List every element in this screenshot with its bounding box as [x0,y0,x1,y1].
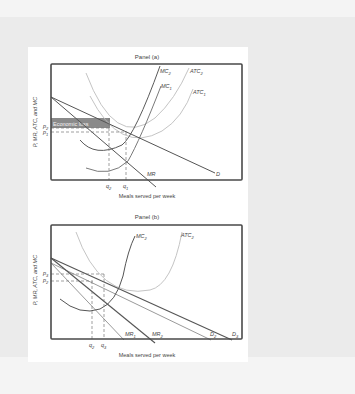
atc1-label-a: ATC1 [192,89,206,97]
q1-tick-a: q1 [123,183,128,191]
q2-tick-b: q2 [89,342,95,350]
panel-a: Panel (a) Economic loss MC2 MC1 ATC2 ATC… [32,54,242,199]
y-axis-label-a: P, MR, ATC, and MC [32,97,38,147]
mc1-label-a: MC1 [161,83,172,91]
y-axis-label-b: P, MR, ATC, and MC [32,255,38,305]
mr-curve [51,97,156,187]
demand-curve-d3 [51,258,232,340]
p2-tick-b: p2 [42,277,49,285]
mr1-label: MR1 [125,331,136,339]
mc2-label-a: MC2 [160,68,172,76]
economic-loss-label: Economic loss [53,121,89,127]
mr-label-a: MR [147,171,156,177]
d-label-a: D [216,171,220,177]
d3-label: D3 [232,331,239,339]
atc2-label-b: ATC2 [180,232,195,240]
atc2-label-a: ATC2 [189,68,204,76]
q2-tick-a: q2 [106,183,112,191]
demand-curve-d [51,97,215,173]
mc2-curve-b [60,236,135,311]
q3-tick-b: q3 [101,342,107,350]
panel-b: Panel (b) MC2 ATC2 MR1 MR2 D2 D3 q2 q3 p… [32,214,242,358]
x-axis-label-b: Meals served per week [119,352,176,358]
mc2-curve [80,66,160,150]
panel-b-title: Panel (b) [135,214,159,220]
mc2-label-b: MC2 [136,233,148,241]
x-axis-label-a: Meals served per week [119,193,176,199]
chart-svg: Panel (a) Economic loss MC2 MC1 ATC2 ATC… [0,0,355,394]
mr2-curve [51,258,155,343]
demand-curve-d2 [51,263,211,340]
mr2-label: MR2 [152,331,164,339]
panel-a-title: Panel (a) [135,54,159,60]
